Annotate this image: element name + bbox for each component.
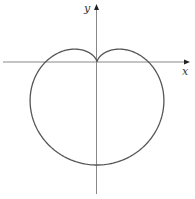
y-axis-label: y [83,2,91,15]
y-axis-arrow-icon [94,4,99,10]
cardioid-plot: x y [0,0,195,199]
x-axis-arrow-icon [184,60,190,65]
x-axis-label: x [182,65,189,78]
